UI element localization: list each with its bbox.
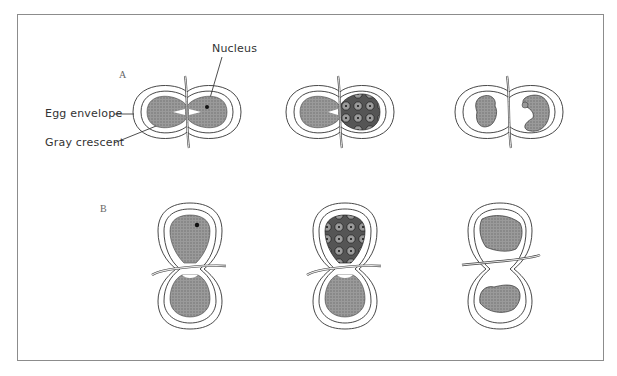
a1-egg <box>133 76 241 148</box>
b1-egg <box>152 203 226 329</box>
b3-egg <box>462 203 540 329</box>
a3-egg <box>455 76 563 148</box>
b2-egg <box>307 203 381 329</box>
diagram-canvas <box>0 0 617 376</box>
a2-egg <box>286 76 394 148</box>
